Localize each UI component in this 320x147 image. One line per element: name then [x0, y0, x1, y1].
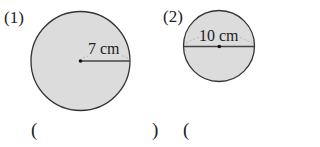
center-point [218, 45, 222, 49]
answer-1-close-paren: ) [152, 119, 158, 141]
answer-2-blank[interactable] [194, 119, 282, 139]
center-point [79, 59, 83, 63]
circle-2-diameter-label: 10 cm [199, 28, 239, 44]
answer-1-open-paren: ( [31, 119, 37, 141]
answer-2-open-paren: ( [183, 119, 189, 141]
circle-1-figure [31, 12, 130, 111]
circle-2-figure [184, 11, 255, 82]
answer-1-blank[interactable] [42, 119, 150, 139]
circle-1-radius-label: 7 cm [88, 41, 120, 57]
